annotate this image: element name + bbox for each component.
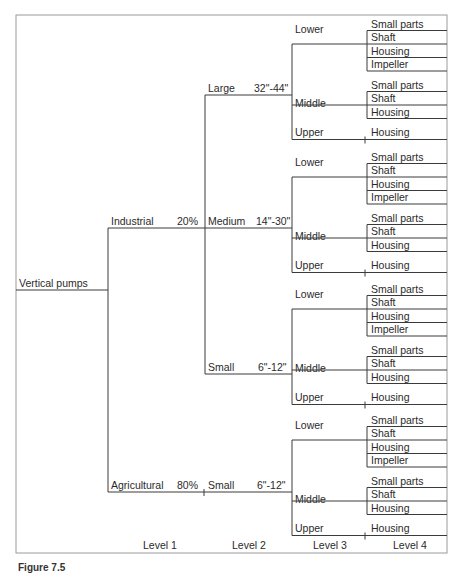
level2-size: 6"-12": [258, 361, 287, 373]
level3-label: Middle: [295, 493, 326, 505]
level1-share: 80%: [177, 479, 198, 491]
level4-part: Shaft: [371, 427, 396, 439]
level2-size: 6"-12": [257, 479, 286, 491]
level4-part: Shaft: [371, 357, 396, 369]
level2-node-large: Large 32"-44": [205, 82, 292, 95]
level3-label: Middle: [295, 230, 326, 242]
level3-label: Lower: [295, 419, 324, 431]
level4-part: Impeller: [371, 191, 409, 203]
level4-part: Shaft: [371, 225, 396, 237]
level3-label: Upper: [295, 126, 324, 138]
level2-node-small-agricultural: Small 6"-12": [208, 479, 286, 491]
level4-part: Small parts: [371, 283, 424, 295]
level4-part: Housing: [371, 259, 410, 271]
level3-section-upper: UpperHousing: [292, 259, 447, 277]
level-label: Level 1: [143, 539, 177, 551]
level3-group: LowerSmall partsShaftHousingImpellerMidd…: [292, 414, 447, 540]
root-node: Vertical pumps: [16, 277, 108, 290]
level2-label: Medium: [208, 215, 246, 227]
level3-label: Upper: [295, 522, 324, 534]
level2-size: 14"-30": [256, 215, 291, 227]
level4-part: Impeller: [371, 454, 409, 466]
level-label: Level 3: [313, 539, 347, 551]
level3-section-middle: MiddleSmall partsShaftHousing: [292, 79, 447, 119]
level4-part: Impeller: [371, 323, 409, 335]
level4-part: Small parts: [371, 212, 424, 224]
level-label: Level 4: [393, 539, 427, 551]
level2-label: Small: [208, 361, 234, 373]
level3-section-lower: LowerSmall partsShaftHousingImpeller: [292, 151, 447, 205]
level3-section-lower: LowerSmall partsShaftHousingImpeller: [292, 414, 447, 468]
level2-label: Large: [208, 82, 235, 94]
level3-section-upper: UpperHousing: [292, 522, 447, 540]
level3-group: LowerSmall partsShaftHousingImpellerMidd…: [292, 151, 447, 277]
level3-section-middle: MiddleSmall partsShaftHousing: [292, 344, 447, 384]
level3-group: LowerSmall partsShaftHousingImpellerMidd…: [292, 283, 447, 409]
level4-part: Housing: [371, 522, 410, 534]
level4-part: Housing: [371, 441, 410, 453]
level3-group: LowerSmall partsShaftHousingImpellerMidd…: [292, 18, 447, 144]
level3-section-upper: UpperHousing: [292, 391, 447, 409]
level3-groups: LowerSmall partsShaftHousingImpellerMidd…: [292, 18, 447, 540]
level3-section-upper: UpperHousing: [292, 126, 447, 144]
level1-share: 20%: [177, 215, 198, 227]
level4-part: Small parts: [371, 18, 424, 30]
level3-label: Upper: [295, 391, 324, 403]
level4-part: Small parts: [371, 151, 424, 163]
level4-part: Shaft: [371, 488, 396, 500]
level3-section-lower: LowerSmall partsShaftHousingImpeller: [292, 18, 447, 72]
level3-section-middle: MiddleSmall partsShaftHousing: [292, 475, 447, 515]
level4-part: Small parts: [371, 475, 424, 487]
figure-caption: Figure 7.5: [18, 562, 65, 573]
level4-part: Housing: [371, 502, 410, 514]
level4-part: Housing: [371, 371, 410, 383]
level4-part: Housing: [371, 239, 410, 251]
level4-part: Small parts: [371, 344, 424, 356]
product-structure-tree: Vertical pumps Industrial 20% Agricultur…: [0, 0, 460, 577]
level4-part: Housing: [371, 106, 410, 118]
level4-part: Shaft: [371, 31, 396, 43]
level4-part: Housing: [371, 45, 410, 57]
level4-part: Shaft: [371, 296, 396, 308]
level-label: Level 2: [232, 539, 266, 551]
level-axis: Level 1 Level 2 Level 3 Level 4: [143, 539, 427, 551]
level3-label: Middle: [295, 362, 326, 374]
level4-part: Small parts: [371, 79, 424, 91]
level3-label: Middle: [295, 97, 326, 109]
level1-label: Industrial: [111, 215, 154, 227]
level3-section-lower: LowerSmall partsShaftHousingImpeller: [292, 283, 447, 337]
level3-label: Lower: [295, 156, 324, 168]
level2-label: Small: [208, 479, 234, 491]
level2-size: 32"-44": [254, 82, 289, 94]
level4-part: Housing: [371, 178, 410, 190]
level4-part: Housing: [371, 310, 410, 322]
level4-part: Small parts: [371, 414, 424, 426]
level4-part: Housing: [371, 391, 410, 403]
root-label: Vertical pumps: [19, 277, 88, 289]
level3-section-middle: MiddleSmall partsShaftHousing: [292, 212, 447, 252]
level4-part: Shaft: [371, 164, 396, 176]
level3-label: Lower: [295, 288, 324, 300]
level4-part: Shaft: [371, 92, 396, 104]
level4-part: Impeller: [371, 58, 409, 70]
level4-part: Housing: [371, 126, 410, 138]
level2-node-medium: Medium 14"-30": [208, 215, 291, 227]
level1-label: Agricultural: [111, 479, 164, 491]
level3-label: Lower: [295, 23, 324, 35]
level3-label: Upper: [295, 259, 324, 271]
level2-node-small-industrial: Small 6"-12": [205, 361, 292, 374]
